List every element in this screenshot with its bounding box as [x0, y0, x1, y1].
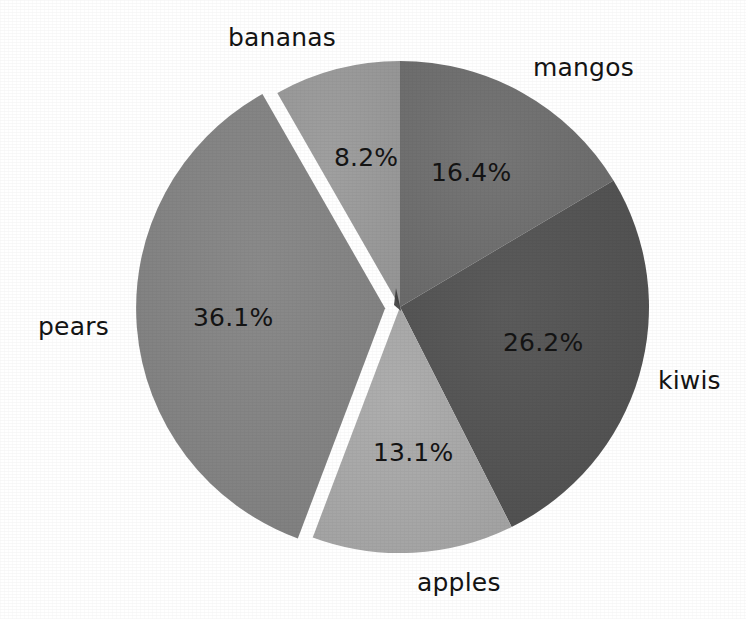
slice-label-bananas: bananas [228, 23, 336, 52]
slice-percent-mangos: 16.4% [431, 158, 511, 187]
slice-percent-kiwis: 26.2% [503, 328, 583, 357]
slice-label-mangos: mangos [533, 53, 634, 82]
pie-chart-canvas [0, 0, 746, 619]
slice-label-pears: pears [38, 312, 109, 341]
pie-chart-figure: bananas mangos kiwis apples pears 8.2% 1… [0, 0, 746, 619]
slice-label-kiwis: kiwis [658, 366, 721, 395]
slice-percent-apples: 13.1% [373, 438, 453, 467]
slice-percent-bananas: 8.2% [334, 143, 398, 172]
slice-percent-pears: 36.1% [193, 303, 273, 332]
slice-label-apples: apples [417, 568, 501, 597]
